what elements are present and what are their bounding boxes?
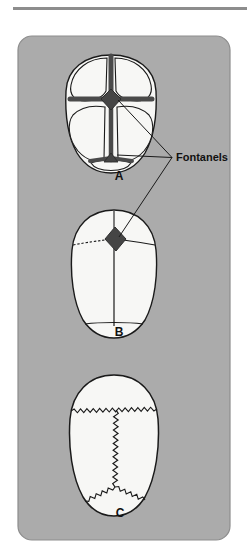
panel-label-a: A [115, 169, 124, 183]
skull-panel-c [70, 375, 159, 516]
skull-fontanels-figure: A B C Fontanels [0, 0, 247, 560]
fontanels-label: Fontanels [176, 151, 228, 163]
top-rule [13, 7, 247, 10]
figure-container: A B C Fontanels [0, 0, 247, 560]
skull-panel-a [66, 55, 156, 173]
skull-panel-b [71, 210, 156, 338]
skull-c-cranium-outline [70, 375, 159, 516]
panel-label-b: B [115, 325, 124, 339]
panel-label-c: C [116, 506, 125, 520]
